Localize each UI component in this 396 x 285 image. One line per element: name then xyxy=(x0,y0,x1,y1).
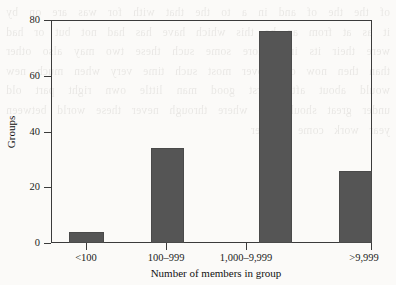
x-tick-mark-lt-100 xyxy=(86,243,87,250)
y-tick-mark-40 xyxy=(44,132,51,133)
x-tick-label-1000-9999: 1,000–9,999 xyxy=(220,252,273,263)
x-tick-label-100-999: 100–999 xyxy=(148,252,185,263)
bar-lt-100[interactable] xyxy=(69,232,104,243)
bar-100-999[interactable] xyxy=(151,148,184,243)
x-axis-title-label: Number of members in group xyxy=(115,267,282,279)
x-tick-mark-100-999 xyxy=(166,243,167,250)
y-tick-label-60: 60 xyxy=(30,70,41,81)
y-tick-mark-80 xyxy=(44,20,51,21)
y-tick-label-0: 0 xyxy=(35,237,40,248)
bar-chart-figure: Groups 0 20 40 60 80 <100 100–999 1,000–… xyxy=(0,0,396,285)
y-tick-mark-0 xyxy=(44,243,51,244)
x-tick-label-lt-100: <100 xyxy=(75,252,97,263)
x-axis-title: Number of members in group xyxy=(0,267,396,279)
y-tick-label-40: 40 xyxy=(30,126,41,137)
y-tick-mark-60 xyxy=(44,76,51,77)
x-tick-label-gt-9999: >9,999 xyxy=(349,252,379,263)
y-tick-label-20: 20 xyxy=(30,181,41,192)
y-tick-label-80: 80 xyxy=(30,14,41,25)
bar-series xyxy=(51,20,372,243)
x-tick-mark-gt-9999 xyxy=(371,243,372,250)
bar-gt-9999[interactable] xyxy=(339,171,372,243)
y-axis-title: Groups xyxy=(3,0,19,285)
x-tick-mark-1000-9999 xyxy=(246,243,247,250)
y-tick-mark-20 xyxy=(44,187,51,188)
bar-1000-9999[interactable] xyxy=(259,31,292,243)
y-axis-title-label: Groups xyxy=(5,115,17,147)
